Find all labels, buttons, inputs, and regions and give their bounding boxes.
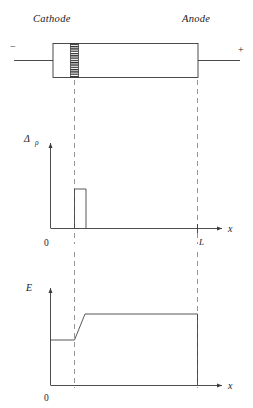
charge-length-label: L	[198, 237, 204, 247]
chart-electric-field: E x 0	[25, 282, 233, 403]
positive-terminal-sign: +	[238, 44, 244, 55]
electric-field-curve	[51, 314, 198, 385]
space-charge-hatch-icon	[71, 44, 79, 77]
cathode-label: Cathode	[33, 13, 71, 24]
alignment-guides	[75, 80, 198, 388]
charge-y-axis-label: Δ	[23, 133, 30, 144]
negative-terminal-sign: −	[10, 41, 16, 52]
figure-canvas: Cathode Anode − + Δ	[0, 0, 253, 408]
physics-figure: Cathode Anode − + Δ	[0, 0, 253, 408]
charge-density-pulse	[75, 189, 87, 228]
anode-label: Anode	[181, 13, 210, 24]
field-origin-label: 0	[44, 393, 49, 403]
field-x-axis-label: x	[227, 380, 233, 391]
field-y-axis-label: E	[25, 282, 32, 293]
chart-charge-density: Δ ρ x 0 L	[23, 133, 233, 248]
charge-y-axis-label-subscript: ρ	[34, 138, 39, 147]
charge-origin-label: 0	[44, 238, 49, 248]
device-schematic: Cathode Anode − +	[10, 13, 244, 78]
charge-x-axis-label: x	[227, 223, 233, 234]
